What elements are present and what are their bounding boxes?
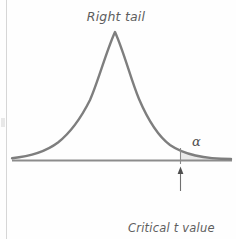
alpha-symbol-label: α bbox=[192, 134, 201, 149]
caption-pointer-arrow bbox=[178, 167, 184, 192]
critical-value-caption: Critical t value (positive) bbox=[128, 192, 215, 239]
caption-line-primary: Critical t value bbox=[128, 221, 215, 236]
chart-title: Right tail bbox=[0, 9, 232, 24]
right-tail-distribution-figure: Right tail α Critical t value (positive) bbox=[0, 0, 236, 239]
